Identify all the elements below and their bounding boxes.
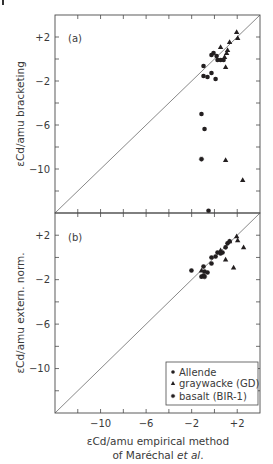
y-axis-label-a: εCd/amu bracketing (14, 61, 26, 167)
panel-a: +2−2−6−10 (29, 15, 260, 213)
x-tick-label: +2 (230, 418, 245, 429)
panel-b-tag: (b) (68, 232, 82, 243)
y-tick-label: +2 (35, 32, 50, 43)
x-axis-label-italic: et al (177, 449, 200, 461)
data-point-allende (213, 254, 218, 259)
y-tick-label: −10 (29, 363, 50, 374)
data-point-allende (201, 64, 206, 69)
data-point-allende (202, 127, 207, 132)
data-point-graywacke (218, 44, 223, 49)
data-point-allende (189, 268, 194, 273)
data-point-allende (209, 255, 214, 260)
x-tick-label: −2 (184, 418, 199, 429)
data-point-graywacke (241, 245, 246, 250)
y-axis-label-b: εCd/amu extern. norm. (14, 252, 26, 373)
x-tick-label: −6 (139, 418, 154, 429)
legend-item-graywacke: graywacke (GD) (171, 378, 260, 389)
circle-marker-icon (171, 370, 175, 374)
data-point-graywacke (223, 64, 228, 69)
data-point-allende (223, 245, 228, 250)
legend-label: basalt (BIR-1) (179, 391, 247, 402)
data-point-allende (213, 77, 218, 82)
panel-a-tag: (a) (68, 33, 82, 44)
legend-item-basalt: basalt (BIR-1) (171, 391, 247, 402)
data-point-graywacke (223, 157, 228, 162)
data-point-allende (209, 71, 214, 76)
legend-label: Allende (179, 367, 216, 378)
x-tick-label: −10 (90, 418, 111, 429)
figure: +2−2−6−10 +2−2−6−10−10−6−2+2 (a) (b) εCd… (0, 0, 273, 464)
data-point-basalt (202, 274, 206, 278)
data-point-graywacke (235, 35, 240, 40)
data-point-graywacke (234, 29, 239, 34)
data-point-graywacke (240, 177, 245, 182)
y-tick-label: −2 (35, 76, 50, 87)
star-dot-marker-icon (171, 394, 175, 398)
y-tick-label: −2 (35, 274, 50, 285)
x-axis-label-line1: εCd/amu empirical method (87, 435, 229, 447)
data-point-allende (206, 209, 211, 214)
y-tick-label: −6 (35, 120, 50, 131)
data-point-allende (205, 270, 210, 275)
y-tick-label: −6 (35, 319, 50, 330)
data-point-allende (209, 261, 214, 266)
legend-label: graywacke (GD) (179, 378, 259, 389)
y-tick-label: +2 (35, 230, 50, 241)
y-tick-label: −10 (29, 164, 50, 175)
data-point-allende (201, 74, 206, 79)
x-axis-label-suffix: . (200, 449, 203, 461)
data-point-graywacke (227, 39, 232, 44)
data-point-graywacke (231, 265, 236, 270)
data-point-graywacke (223, 257, 228, 262)
data-point-allende (214, 54, 219, 59)
x-axis-label-prefix: of Maréchal (112, 449, 177, 461)
data-point-allende (205, 75, 210, 80)
one-to-one-line (55, 15, 260, 213)
data-point-allende (199, 112, 204, 117)
data-point-allende (201, 264, 206, 269)
x-axis-label-line2: of Maréchal et al. (112, 449, 203, 461)
data-point-basalt (199, 157, 203, 161)
legend: Allende graywacke (GD) basalt (BIR-1) (166, 362, 259, 405)
